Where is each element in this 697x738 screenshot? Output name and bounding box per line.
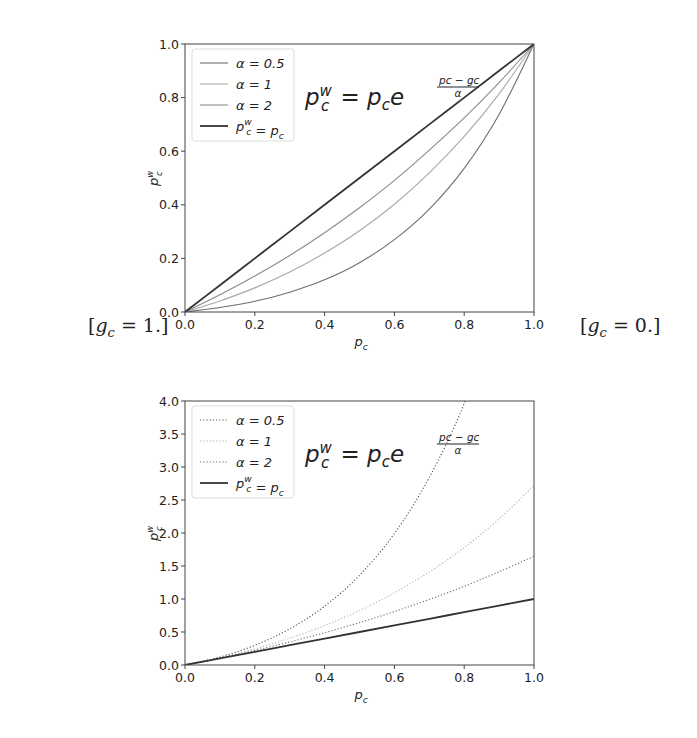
svg-text:pᴄ − gᴄ: pᴄ − gᴄ xyxy=(438,74,480,86)
svg-text:1.0: 1.0 xyxy=(159,592,179,607)
bottom-chart: 0.00.20.40.60.81.0 0.00.51.01.52.02.53.0… xyxy=(145,177,544,705)
top-chart: 0.00.20.40.60.81.0 0.00.20.40.60.81.0 α … xyxy=(145,37,544,352)
bottom-chart-y-ticks: 0.00.51.01.52.02.53.03.54.0 xyxy=(159,394,185,673)
svg-text:pwc = pce: pwc = pce xyxy=(304,82,404,115)
svg-text:0.4: 0.4 xyxy=(159,197,179,212)
svg-text:α = 2: α = 2 xyxy=(236,455,272,470)
bottom-chart-x-ticks: 0.00.20.40.60.81.0 xyxy=(175,665,544,685)
svg-text:0.4: 0.4 xyxy=(315,317,335,332)
svg-text:0.0: 0.0 xyxy=(159,658,179,673)
figure-canvas: 0.00.20.40.60.81.0 0.00.20.40.60.81.0 α … xyxy=(0,0,697,738)
svg-text:α = 0.5: α = 0.5 xyxy=(236,413,284,428)
condition-label-left-text: [gc = 1.] xyxy=(88,314,168,336)
condition-label-left: [gc = 1.] xyxy=(88,314,168,340)
svg-text:pwc = pce: pwc = pce xyxy=(304,439,404,472)
svg-text:α = 2: α = 2 xyxy=(236,98,272,113)
svg-text:0.8: 0.8 xyxy=(454,317,474,332)
svg-text:0.8: 0.8 xyxy=(159,90,179,105)
svg-text:0.2: 0.2 xyxy=(159,251,179,266)
svg-text:pc: pc xyxy=(354,334,368,352)
svg-text:2.5: 2.5 xyxy=(159,493,179,508)
svg-text:pwc: pwc xyxy=(145,171,164,187)
svg-text:1.0: 1.0 xyxy=(159,37,179,52)
condition-label-right: [gc = 0.] xyxy=(580,314,660,340)
svg-text:0.2: 0.2 xyxy=(245,670,265,685)
svg-text:α = 0.5: α = 0.5 xyxy=(236,56,284,71)
svg-text:pc: pc xyxy=(354,687,368,705)
svg-text:1.0: 1.0 xyxy=(524,670,544,685)
top-chart-formula: pwc = pcepᴄ − gᴄα xyxy=(304,74,480,115)
svg-text:α = 1: α = 1 xyxy=(236,434,272,449)
svg-text:3.5: 3.5 xyxy=(159,427,179,442)
svg-text:0.6: 0.6 xyxy=(384,317,404,332)
svg-text:1.5: 1.5 xyxy=(159,559,179,574)
svg-text:0.6: 0.6 xyxy=(159,144,179,159)
svg-text:4.0: 4.0 xyxy=(159,394,179,409)
condition-label-right-text: [gc = 0.] xyxy=(580,314,660,336)
top-chart-y-ticks: 0.00.20.40.60.81.0 xyxy=(159,37,185,320)
svg-text:0.8: 0.8 xyxy=(454,670,474,685)
bottom-chart-formula: pwc = pcepᴄ − gᴄα xyxy=(304,431,480,472)
svg-text:α: α xyxy=(455,87,462,99)
svg-text:0.6: 0.6 xyxy=(384,670,404,685)
svg-text:α = 1: α = 1 xyxy=(236,77,272,92)
bottom-chart-legend: α = 0.5α = 1α = 2pwc = pc xyxy=(192,406,294,498)
svg-text:0.5: 0.5 xyxy=(159,625,179,640)
top-chart-legend: α = 0.5α = 1α = 2pwc = pc xyxy=(192,49,294,141)
svg-text:pwc: pwc xyxy=(145,526,164,542)
top-chart-x-ticks: 0.00.20.40.60.81.0 xyxy=(175,312,544,332)
svg-text:pᴄ − gᴄ: pᴄ − gᴄ xyxy=(438,431,480,443)
svg-text:0.4: 0.4 xyxy=(315,670,335,685)
series-line xyxy=(185,599,534,665)
svg-text:0.2: 0.2 xyxy=(245,317,265,332)
svg-text:α: α xyxy=(455,444,462,456)
svg-text:3.0: 3.0 xyxy=(159,460,179,475)
svg-text:1.0: 1.0 xyxy=(524,317,544,332)
